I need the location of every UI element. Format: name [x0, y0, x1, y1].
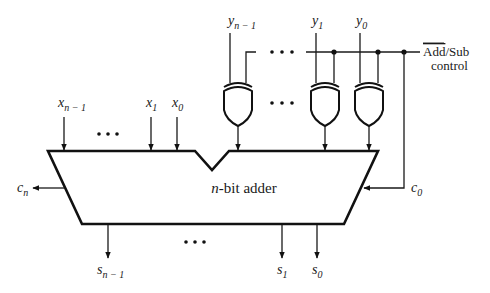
svg-text:control: control: [431, 58, 468, 73]
svg-text:c0: c0: [411, 180, 422, 198]
s-ellipsis: [184, 240, 206, 244]
add-sub-control-line: [246, 49, 420, 83]
svg-text:x0: x0: [171, 95, 183, 113]
input-y-1: y1: [310, 13, 323, 83]
svg-text:xn − 1: xn − 1: [57, 95, 86, 113]
xor-ellipsis: [270, 101, 294, 105]
carry-out: cn: [17, 180, 64, 198]
svg-text:yn − 1: yn − 1: [226, 13, 256, 31]
svg-text:x1: x1: [145, 95, 157, 113]
input-y-0: y0: [354, 13, 367, 83]
svg-text:sn − 1: sn − 1: [97, 262, 124, 280]
x-ellipsis: [97, 132, 119, 136]
svg-text:cn: cn: [17, 180, 28, 198]
svg-text:s0: s0: [312, 262, 322, 280]
adder-label: n-bit adder: [211, 180, 276, 196]
xor-gate-n-1: [224, 83, 252, 150]
output-s-n-1: sn − 1: [97, 225, 124, 280]
input-x-1: x1: [145, 95, 157, 150]
svg-text:y1: y1: [310, 13, 323, 31]
xor-gate-1: [311, 83, 339, 150]
svg-text:s1: s1: [277, 262, 287, 280]
add-sub-control-label: Add/Sub control: [423, 43, 469, 73]
adder-subtractor-diagram: n-bit adder xn − 1 x1 x0 yn − 1 y1 y0: [0, 0, 490, 293]
svg-text:y0: y0: [354, 13, 367, 31]
output-s-0: s0: [312, 225, 322, 280]
input-x-0: x0: [171, 95, 183, 150]
svg-text:Add/Sub: Add/Sub: [423, 44, 469, 59]
input-x-n-1: xn − 1: [57, 95, 86, 150]
input-y-n-1: yn − 1: [226, 13, 256, 83]
xor-gate-0: [355, 83, 383, 150]
output-s-1: s1: [277, 225, 287, 280]
